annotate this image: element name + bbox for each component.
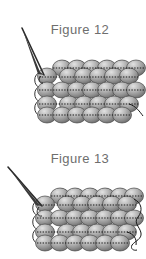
bead-grid: [36, 188, 144, 251]
bead-grid: [38, 60, 146, 123]
bead-row: [36, 196, 137, 212]
figure-12-block: Figure 12: [0, 0, 146, 129]
figure-12-diagram: [0, 0, 146, 129]
figure-13-block: Figure 13: [0, 129, 146, 258]
figure-13-diagram: [0, 129, 146, 258]
bead-row: [38, 68, 139, 84]
